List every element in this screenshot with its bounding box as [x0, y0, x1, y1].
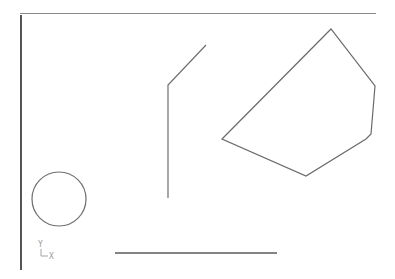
circle-entity[interactable] — [32, 172, 86, 226]
bent-polyline-entity[interactable] — [168, 45, 206, 198]
ucs-icon: Y X — [38, 240, 54, 261]
polygon-entity[interactable] — [222, 29, 375, 176]
ucs-y-label: Y — [38, 240, 43, 249]
ucs-axes-icon — [41, 249, 48, 256]
ucs-x-label: X — [49, 252, 54, 261]
drawing-viewport[interactable]: Y X — [0, 0, 395, 279]
